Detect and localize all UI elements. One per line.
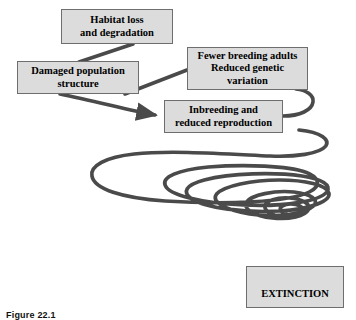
node-fewer-breeding-adults-label: Fewer breeding adults Reduced genetic va… — [195, 50, 301, 87]
extinction-vortex-spiral — [92, 130, 329, 219]
node-inbreeding: Inbreeding and reduced reproduction — [164, 100, 283, 133]
node-fewer-breeding-adults: Fewer breeding adults Reduced genetic va… — [187, 47, 308, 90]
node-habitat-loss: Habitat loss and degradation — [61, 9, 173, 44]
node-damaged-population-label: Damaged population structure — [28, 65, 128, 90]
node-habitat-loss-label: Habitat loss and degradation — [77, 14, 157, 39]
node-inbreeding-label: Inbreeding and reduced reproduction — [172, 104, 275, 129]
node-damaged-population: Damaged population structure — [17, 61, 139, 94]
connector-habitat-to-damaged — [79, 44, 133, 62]
figure-caption: Figure 22.1 — [6, 310, 56, 320]
connector-damaged-to-inbreeding — [60, 94, 155, 115]
node-extinction: EXTINCTION — [246, 266, 344, 308]
node-extinction-label: EXTINCTION — [258, 288, 332, 300]
vortex-lead-in — [283, 89, 313, 116]
